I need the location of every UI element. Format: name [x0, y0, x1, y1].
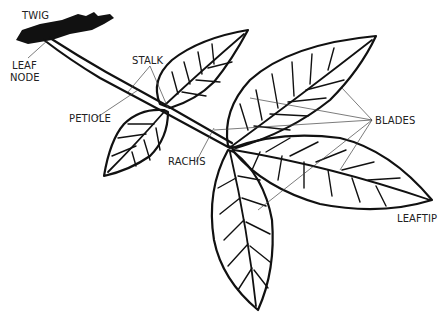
leaflet-upper-right — [227, 36, 376, 148]
label-rachis: RACHIS — [168, 156, 206, 167]
leaflet-upper-left — [157, 30, 248, 108]
label-twig: TWIG — [22, 10, 49, 21]
label-leaf-node-line1: LEAF — [12, 60, 37, 71]
leaflet-bottom — [212, 150, 273, 310]
leaflet-lower-left — [104, 110, 168, 176]
label-blades: BLADES — [375, 115, 415, 126]
label-stalk: STALK — [132, 55, 163, 66]
leaf-drawing — [0, 0, 441, 324]
leaflet-right — [232, 136, 432, 210]
leaf-diagram: TWIG LEAF NODE STALK PETIOLE RACHIS BLAD… — [0, 0, 441, 324]
label-petiole: PETIOLE — [69, 113, 111, 124]
label-leaf-node-line2: NODE — [10, 72, 40, 83]
label-leaftip: LEAFTIP — [397, 213, 437, 224]
